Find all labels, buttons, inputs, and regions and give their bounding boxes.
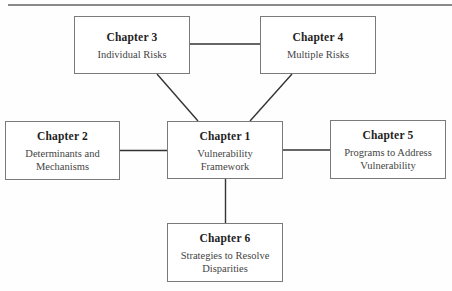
node-description-line: Vulnerability (344, 159, 432, 172)
node-description-line: Vulnerability (197, 147, 252, 160)
node-description: Programs to Address Vulnerability (344, 146, 432, 172)
node-chapter-3: Chapter 3 Individual Risks (74, 16, 190, 74)
node-title: Chapter 1 (199, 129, 250, 143)
edge-ch4-ch1 (250, 74, 292, 121)
node-title: Chapter 3 (106, 30, 157, 44)
node-description-line: Determinants and (25, 147, 99, 160)
node-description: Multiple Risks (287, 48, 349, 61)
node-title: Chapter 5 (362, 128, 413, 142)
node-title: Chapter 6 (199, 231, 250, 245)
node-description-line: Framework (197, 160, 252, 173)
node-description: Individual Risks (97, 48, 166, 61)
node-description-line: Individual Risks (97, 48, 166, 61)
node-description-line: Multiple Risks (287, 48, 349, 61)
node-description-line: Strategies to Resolve (181, 249, 270, 262)
node-chapter-5: Chapter 5 Programs to Address Vulnerabil… (330, 120, 446, 179)
node-chapter-2: Chapter 2 Determinants and Mechanisms (5, 121, 120, 180)
node-title: Chapter 2 (37, 129, 88, 143)
node-chapter-4: Chapter 4 Multiple Risks (260, 16, 376, 74)
node-description: Strategies to Resolve Disparities (181, 249, 270, 275)
node-description-line: Mechanisms (25, 160, 99, 173)
node-description-line: Disparities (181, 262, 270, 275)
node-description-line: Programs to Address (344, 146, 432, 159)
node-title: Chapter 4 (292, 30, 343, 44)
node-chapter-6: Chapter 6 Strategies to Resolve Disparit… (167, 223, 283, 282)
node-description: Determinants and Mechanisms (25, 147, 99, 173)
node-description: Vulnerability Framework (197, 147, 252, 173)
edge-ch3-ch1 (157, 74, 198, 121)
node-chapter-1: Chapter 1 Vulnerability Framework (167, 121, 283, 179)
